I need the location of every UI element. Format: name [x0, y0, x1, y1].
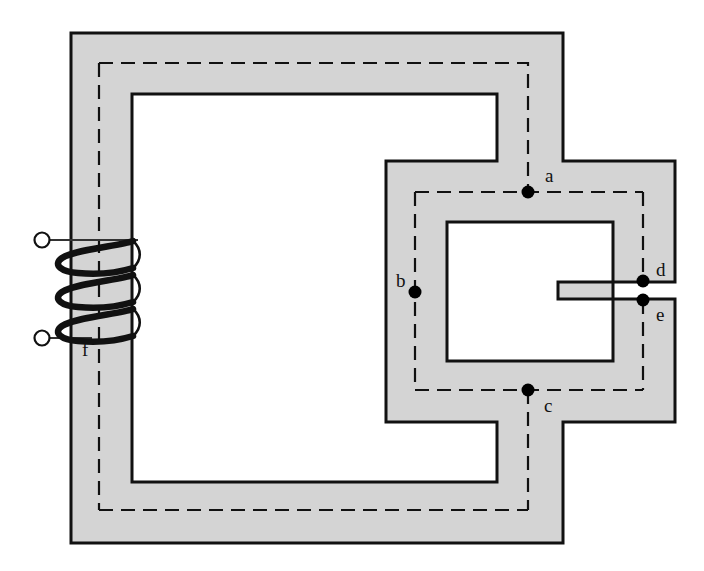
node-marker-a[interactable]	[522, 186, 535, 199]
node-marker-c[interactable]	[522, 384, 535, 397]
node-label-e: e	[656, 304, 664, 325]
node-label-f: f	[82, 339, 89, 360]
node-label-b: b	[396, 270, 406, 291]
core-body-group	[71, 33, 675, 543]
node-label-c: c	[544, 395, 552, 416]
node-label-d: d	[656, 259, 666, 280]
node-marker-e[interactable]	[637, 294, 650, 307]
core-outline-main	[71, 33, 675, 543]
node-label-a: a	[545, 165, 554, 186]
coil-terminal-bottom[interactable]	[35, 331, 50, 346]
coil-back-strands	[133, 241, 140, 336]
coil-terminal-top[interactable]	[35, 233, 50, 248]
diagram-canvas: a b c d e f	[0, 0, 704, 571]
node-marker-b[interactable]	[409, 286, 422, 299]
node-marker-d[interactable]	[637, 275, 650, 288]
magnetic-circuit-diagram: a b c d e f	[0, 0, 704, 571]
